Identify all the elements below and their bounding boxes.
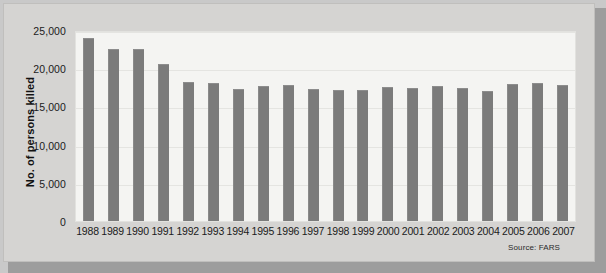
bar-slot [276, 32, 301, 221]
y-axis-tick-label: 0 [60, 216, 66, 228]
x-axis-tick-label: 1991 [150, 225, 175, 241]
plot-area [75, 31, 576, 222]
bar-slot [126, 32, 151, 221]
bar-2005[interactable] [507, 84, 518, 221]
bar-slot [525, 32, 550, 221]
bar-1995[interactable] [258, 86, 269, 221]
chart-figure: No. of persons killed 25,00020,00015,000… [0, 0, 606, 273]
x-axis-tick-label: 2001 [401, 225, 426, 241]
x-axis-tick-label: 2006 [526, 225, 551, 241]
x-axis-tick-label: 1989 [100, 225, 125, 241]
y-axis-tick-label: 10,000 [33, 140, 66, 152]
bar-1990[interactable] [133, 49, 144, 221]
x-axis-tick-label: 1993 [200, 225, 225, 241]
y-axis-tick-label: 20,000 [33, 63, 66, 75]
bar-series [76, 32, 575, 221]
bar-2002[interactable] [432, 86, 443, 221]
bar-1997[interactable] [308, 89, 319, 221]
bar-2001[interactable] [407, 88, 418, 221]
x-axis-tick-label: 2003 [451, 225, 476, 241]
x-axis-tick-label: 1997 [300, 225, 325, 241]
bar-slot [550, 32, 575, 221]
x-axis-tick-label: 2000 [376, 225, 401, 241]
bar-1991[interactable] [158, 64, 169, 221]
x-axis-tick-label: 1999 [351, 225, 376, 241]
x-axis-tick-label: 1988 [75, 225, 100, 241]
y-axis-tick-label: 25,000 [33, 25, 66, 37]
bar-slot [76, 32, 101, 221]
bar-2000[interactable] [382, 87, 393, 221]
bar-1992[interactable] [183, 82, 194, 221]
source-note: Source: FARS [4, 243, 560, 252]
x-axis-tick-label: 1990 [125, 225, 150, 241]
x-axis-tick-label: 1992 [175, 225, 200, 241]
bar-1989[interactable] [108, 49, 119, 221]
bar-1999[interactable] [357, 90, 368, 221]
bar-2003[interactable] [457, 88, 468, 221]
x-axis-tick-label: 2007 [551, 225, 576, 241]
bar-slot [450, 32, 475, 221]
x-axis-tick-label: 1995 [250, 225, 275, 241]
bar-1998[interactable] [333, 90, 344, 221]
x-axis-tick-label: 1996 [275, 225, 300, 241]
bar-slot [226, 32, 251, 221]
x-axis-tick-label: 2005 [501, 225, 526, 241]
bar-slot [176, 32, 201, 221]
bar-slot [475, 32, 500, 221]
chart-panel: No. of persons killed 25,00020,00015,000… [3, 3, 595, 262]
bar-slot [151, 32, 176, 221]
bar-slot [301, 32, 326, 221]
bar-slot [375, 32, 400, 221]
bar-slot [350, 32, 375, 221]
x-axis-tick-label: 1994 [225, 225, 250, 241]
bar-slot [425, 32, 450, 221]
y-axis-tick-label: 15,000 [33, 101, 66, 113]
bar-2004[interactable] [482, 91, 493, 221]
bar-2007[interactable] [557, 85, 568, 221]
x-axis-tick-labels: 1988198919901991199219931994199519961997… [75, 225, 576, 241]
y-axis-tick-labels: 25,00020,00015,00010,0005,0000 [4, 31, 70, 222]
bar-1994[interactable] [233, 89, 244, 221]
bar-1988[interactable] [83, 38, 94, 221]
x-axis-tick-label: 1998 [325, 225, 350, 241]
x-axis-tick-label: 2004 [476, 225, 501, 241]
bar-2006[interactable] [532, 83, 543, 221]
bar-slot [251, 32, 276, 221]
bar-slot [101, 32, 126, 221]
bar-slot [326, 32, 351, 221]
bar-1993[interactable] [208, 83, 219, 221]
bar-slot [201, 32, 226, 221]
bar-1996[interactable] [283, 85, 294, 221]
bar-slot [500, 32, 525, 221]
y-axis-tick-label: 5,000 [39, 178, 66, 190]
x-axis-tick-label: 2002 [426, 225, 451, 241]
bar-slot [400, 32, 425, 221]
